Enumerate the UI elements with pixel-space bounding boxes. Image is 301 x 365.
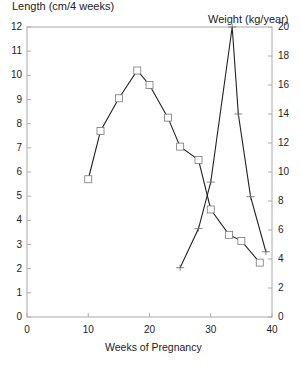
right-tick-label: 12 (278, 137, 289, 148)
left-tick-label: 7 (16, 142, 22, 153)
left-tick-label: 9 (16, 94, 22, 105)
right-tick-label: 14 (278, 108, 289, 119)
square-marker-icon (177, 143, 184, 150)
square-marker-icon (85, 176, 92, 183)
right-tick-label: 2 (278, 282, 284, 293)
square-marker-icon (134, 67, 141, 74)
left-tick-label: 11 (12, 45, 22, 56)
chart-plot (0, 0, 301, 365)
left-tick-label: 2 (16, 263, 22, 274)
left-tick-label: 12 (11, 21, 22, 32)
x-tick-label: 20 (142, 324, 158, 335)
square-marker-icon (115, 95, 122, 102)
square-marker-icon (226, 231, 233, 238)
square-marker-icon (164, 114, 171, 121)
square-marker-icon (195, 156, 202, 163)
right-tick-label: 6 (278, 224, 284, 235)
right-tick-label: 0 (278, 311, 284, 322)
left-tick-label: 3 (16, 239, 22, 250)
right-tick-label: 10 (278, 166, 289, 177)
x-tick-label: 10 (80, 324, 96, 335)
square-marker-icon (97, 127, 104, 134)
x-tick-label: 40 (264, 324, 280, 335)
left-tick-label: 4 (16, 214, 22, 225)
x-tick-label: 30 (203, 324, 219, 335)
square-marker-icon (146, 82, 153, 89)
right-tick-label: 16 (278, 79, 289, 90)
x-tick-label: 0 (19, 324, 35, 335)
left-tick-label: 0 (16, 311, 22, 322)
left-tick-label: 6 (16, 166, 22, 177)
square-marker-icon (238, 237, 245, 244)
right-tick-label: 18 (278, 50, 289, 61)
square-marker-icon (256, 259, 263, 266)
right-tick-label: 20 (278, 21, 289, 32)
left-tick-label: 8 (16, 118, 22, 129)
right-tick-label: 4 (278, 253, 284, 264)
series-line-weight (180, 27, 266, 268)
left-tick-label: 10 (11, 69, 22, 80)
left-tick-label: 1 (16, 287, 22, 298)
right-tick-label: 8 (278, 195, 284, 206)
left-tick-label: 5 (16, 190, 22, 201)
series-line-length (88, 71, 260, 263)
square-marker-icon (207, 206, 214, 213)
